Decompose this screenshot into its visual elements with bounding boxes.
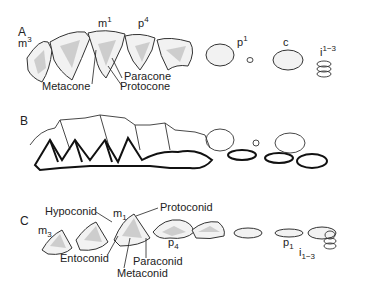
panel-c: C m3 m1 p4 p1 i1−3 Hypoconid Protoconi	[20, 201, 336, 279]
label-incisors-upper: i1−3	[320, 44, 337, 58]
label-canine-upper: c	[283, 36, 289, 48]
tooth-p1-lower	[275, 229, 303, 237]
label-m3-upper: m3	[18, 35, 32, 49]
label-m1-upper: m1	[98, 15, 112, 29]
upper-canine-outline-b	[275, 133, 305, 153]
lower-canine-outline-b	[297, 154, 327, 168]
leader-metacone	[92, 50, 96, 84]
panel-a: A m3 m1 p4 p1 c i1−3 Metacone Paracone	[18, 15, 337, 92]
upper-p2-outline-b	[206, 129, 234, 151]
tooth-p2-lower	[234, 228, 262, 238]
leader-paracone	[112, 58, 122, 78]
label-p1-upper: p1	[237, 34, 248, 48]
tooth-canine-upper	[273, 50, 303, 70]
tooth-p2-upper	[206, 44, 234, 66]
label-p4-upper: p4	[138, 15, 149, 29]
upper-row-outline	[30, 115, 210, 148]
label-hypoconid: Hypoconid	[45, 205, 97, 217]
panel-b-letter: B	[20, 114, 28, 128]
panel-b: B	[20, 114, 327, 170]
label-metaconid: Metaconid	[117, 267, 168, 279]
lower-p2-outline-b	[228, 150, 256, 160]
label-protocone: Protocone	[120, 80, 170, 92]
label-m3-lower: m3	[38, 224, 52, 239]
tooth-p1-upper	[247, 58, 253, 63]
leader-entoconid	[108, 236, 118, 254]
label-incisors-lower: i1−3	[299, 246, 316, 261]
label-m1-lower: m1	[113, 207, 127, 222]
label-paraconid: Paraconid	[133, 255, 183, 267]
incisors-upper	[317, 61, 331, 77]
panel-c-letter: C	[20, 214, 29, 228]
tooth-canine-lower	[308, 227, 336, 239]
lower-p1-outline-b	[265, 153, 293, 163]
lower-row-outline	[35, 138, 212, 170]
leader-protoconid	[136, 208, 158, 216]
label-protoconid: Protoconid	[160, 201, 213, 213]
label-entoconid: Entoconid	[60, 252, 109, 264]
upper-p1-outline-b	[253, 140, 259, 146]
label-metacone: Metacone	[42, 80, 90, 92]
dentition-diagram: A m3 m1 p4 p1 c i1−3 Metacone Paracone	[0, 0, 373, 293]
leader-hypoconid	[96, 212, 112, 222]
label-p1-lower: p1	[283, 236, 294, 251]
